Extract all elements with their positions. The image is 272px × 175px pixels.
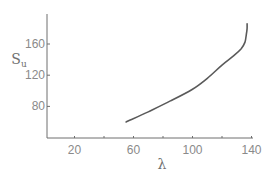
data-line: [126, 24, 247, 122]
x-tick-label: 60: [127, 143, 141, 157]
y-axis-label-main: S: [11, 51, 21, 67]
x-axis-label: λ: [158, 156, 167, 172]
x-tick-label: 140: [241, 143, 261, 157]
y-axis-label: Su: [11, 51, 27, 69]
y-tick-label: 160: [25, 37, 45, 51]
y-tick-label: 80: [32, 99, 46, 113]
y-tick-label: 120: [25, 68, 45, 82]
x-tick-label: 20: [68, 143, 82, 157]
x-ticks: 2060100140: [68, 136, 262, 157]
chart: 80120160 2060100140 λ Su: [0, 0, 272, 175]
x-tick-label: 100: [182, 143, 202, 157]
y-ticks: 80120160: [25, 37, 50, 113]
y-axis-label-sub: u: [21, 59, 27, 69]
